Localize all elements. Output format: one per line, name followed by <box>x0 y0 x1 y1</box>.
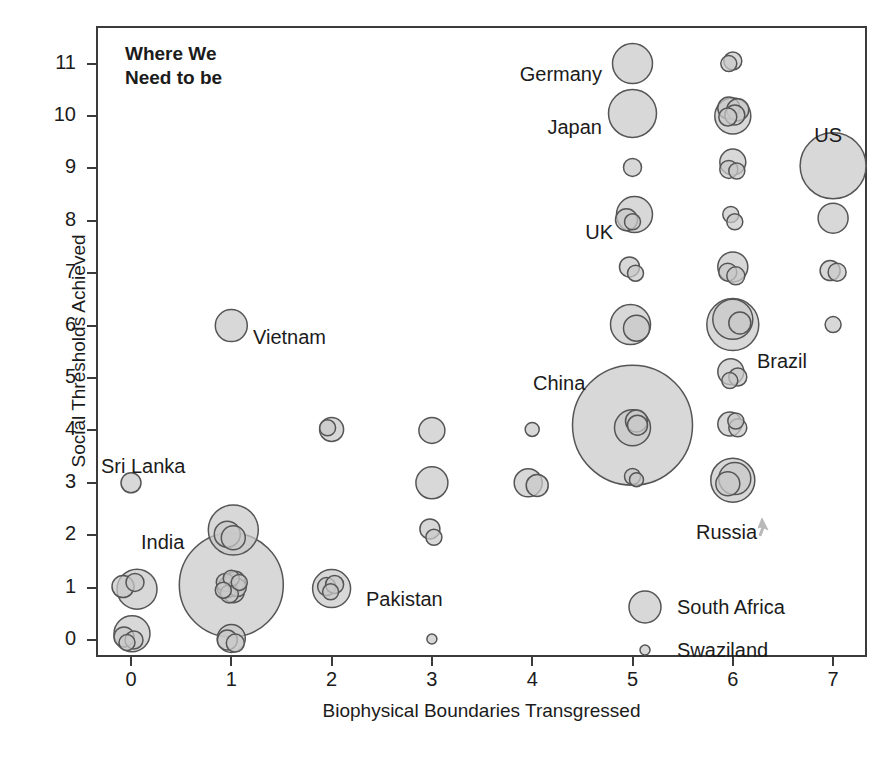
label-brazil: Brazil <box>757 350 807 373</box>
x-tick-label-1: 1 <box>211 668 251 691</box>
x-tick-label-5: 5 <box>613 668 653 691</box>
label-sri-lanka: Sri Lanka <box>101 455 186 478</box>
label-vietnam: Vietnam <box>253 326 326 349</box>
x-tick-4 <box>531 657 533 666</box>
x-tick-label-4: 4 <box>512 668 552 691</box>
x-tick-7 <box>832 657 834 666</box>
plot-frame <box>96 26 867 657</box>
legend-item-south-africa: South Africa <box>627 589 785 625</box>
label-us: US <box>814 124 842 147</box>
label-japan: Japan <box>548 116 603 139</box>
label-india: India <box>141 531 184 554</box>
x-tick-1 <box>230 657 232 666</box>
legend-label: Swaziland <box>677 639 768 662</box>
label-uk: UK <box>585 221 613 244</box>
label-russia: Russia <box>696 521 757 544</box>
x-tick-label-3: 3 <box>412 668 452 691</box>
x-tick-3 <box>431 657 433 666</box>
x-axis-title: Biophysical Boundaries Transgressed <box>96 700 867 722</box>
headline-line-2: Need to be <box>125 66 222 90</box>
label-germany: Germany <box>520 63 602 86</box>
x-tick-label-7: 7 <box>813 668 853 691</box>
legend-item-swaziland: Swaziland <box>627 632 768 668</box>
headline-annotation: Where We Need to be <box>125 42 222 90</box>
legend-marker <box>627 632 663 668</box>
x-tick-label-0: 0 <box>111 668 151 691</box>
x-tick-0 <box>130 657 132 666</box>
y-axis-title: Social Thresholds Achieved <box>68 36 90 666</box>
pointer-mark <box>758 516 780 542</box>
legend-label: South Africa <box>677 596 785 619</box>
legend-marker <box>627 589 663 625</box>
label-china: China <box>533 372 585 395</box>
label-pakistan: Pakistan <box>366 588 443 611</box>
chart-canvas: 01234567 01234567891011 Biophysical Boun… <box>0 0 890 757</box>
x-tick-label-2: 2 <box>312 668 352 691</box>
x-tick-2 <box>331 657 333 666</box>
headline-line-1: Where We <box>125 42 222 66</box>
x-tick-label-6: 6 <box>713 668 753 691</box>
